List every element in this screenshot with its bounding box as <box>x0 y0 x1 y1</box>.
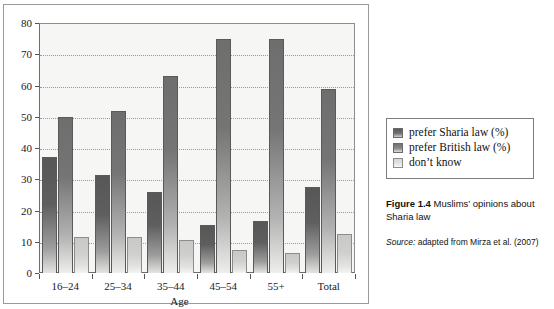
y-tick-mark <box>35 54 39 55</box>
figure-page: 0102030405060708016–2425–3435–4445–5455+… <box>0 0 554 309</box>
y-tick-mark <box>35 86 39 87</box>
y-tick-label: 10 <box>4 236 32 247</box>
y-tick-label: 50 <box>4 111 32 122</box>
legend-item-british[interactable]: prefer British law (%) <box>393 141 527 154</box>
x-tick-mark <box>197 274 198 279</box>
bar-0-2 <box>147 192 162 273</box>
y-tick-label: 40 <box>4 143 32 154</box>
bar-1-0 <box>58 117 73 273</box>
bar-1-5 <box>321 89 336 273</box>
source-prefix: Source: <box>386 237 415 247</box>
bar-0-5 <box>305 187 320 273</box>
gridline <box>40 55 354 56</box>
bar-1-3 <box>216 39 231 273</box>
y-tick-mark <box>35 117 39 118</box>
bar-2-1 <box>127 237 142 273</box>
figure-number: Figure 1.4 <box>386 198 431 209</box>
legend-label-dontknow: don’t know <box>409 156 462 169</box>
gridline <box>40 149 354 150</box>
x-tick-label: 25–34 <box>104 280 132 292</box>
y-tick-label: 0 <box>4 268 32 279</box>
x-tick-label: 16–24 <box>52 280 80 292</box>
series-0-swatch-icon <box>393 128 403 138</box>
bar-2-5 <box>337 234 352 273</box>
legend-item-sharia[interactable]: prefer Sharia law (%) <box>393 126 527 139</box>
bar-0-1 <box>95 175 110 273</box>
bar-0-4 <box>253 221 268 273</box>
legend-label-british: prefer British law (%) <box>409 141 510 154</box>
figure-caption: Figure 1.4 Muslims’ opinions about Shari… <box>386 198 542 224</box>
x-tick-mark <box>144 274 145 279</box>
x-tick-mark <box>250 274 251 279</box>
chart-legend: prefer Sharia law (%) prefer British law… <box>386 118 534 179</box>
x-tick-label: 35–44 <box>157 280 185 292</box>
source-text: adapted from Mirza et al. (2007) <box>415 237 538 247</box>
bar-1-4 <box>269 39 284 273</box>
x-tick-label: 55+ <box>267 280 284 292</box>
figure-source: Source: adapted from Mirza et al. (2007) <box>386 237 546 248</box>
x-tick-mark <box>355 274 356 279</box>
bar-2-4 <box>285 253 300 273</box>
legend-item-dontknow[interactable]: don’t know <box>393 156 527 169</box>
bar-2-2 <box>179 240 194 273</box>
x-tick-mark <box>39 274 40 279</box>
series-2-swatch-icon <box>393 158 403 168</box>
x-tick-mark <box>92 274 93 279</box>
bar-1-2 <box>163 76 178 273</box>
bar-0-3 <box>200 225 215 273</box>
x-tick-label: 45–54 <box>210 280 238 292</box>
series-1-swatch-icon <box>393 143 403 153</box>
y-tick-mark <box>35 23 39 24</box>
gridline <box>40 87 354 88</box>
bar-1-1 <box>111 111 126 274</box>
bar-2-0 <box>74 237 89 273</box>
gridline <box>40 118 354 119</box>
bar-0-0 <box>42 157 57 273</box>
y-tick-label: 80 <box>4 18 32 29</box>
y-tick-label: 30 <box>4 174 32 185</box>
x-tick-mark <box>302 274 303 279</box>
x-axis-title: Age <box>4 295 355 307</box>
y-tick-mark <box>35 148 39 149</box>
legend-label-sharia: prefer Sharia law (%) <box>409 126 508 139</box>
bar-2-3 <box>232 250 247 273</box>
y-tick-label: 70 <box>4 49 32 60</box>
y-tick-label: 60 <box>4 80 32 91</box>
gridline <box>40 180 354 181</box>
y-tick-mark <box>35 211 39 212</box>
y-tick-mark <box>35 242 39 243</box>
chart-frame: 0102030405060708016–2425–3435–4445–5455+… <box>3 4 369 304</box>
x-tick-label: Total <box>317 280 339 292</box>
y-tick-mark <box>35 179 39 180</box>
y-tick-label: 20 <box>4 205 32 216</box>
